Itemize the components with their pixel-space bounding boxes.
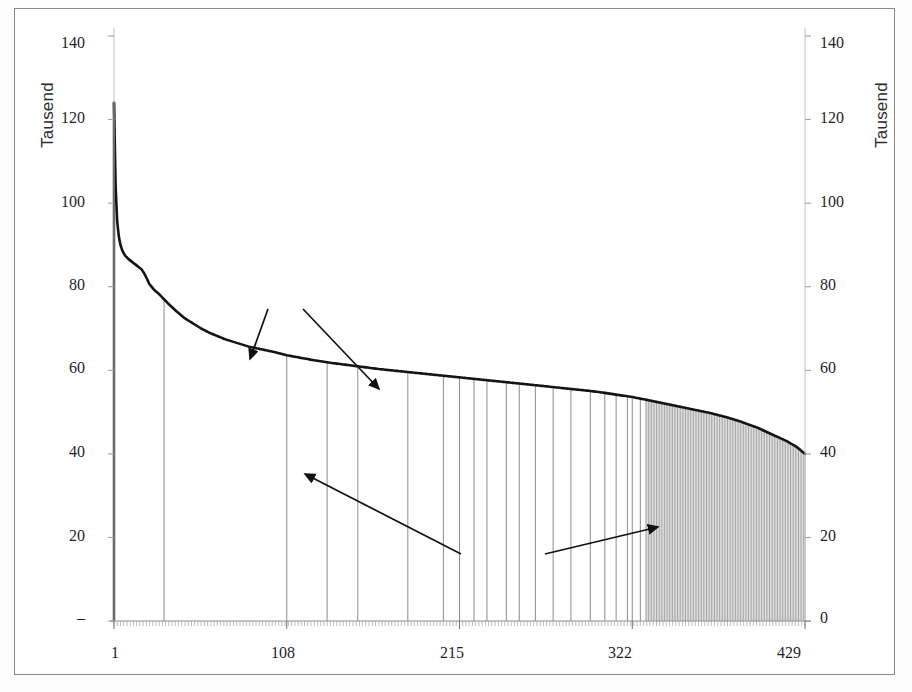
- sparse-region-mask: [112, 34, 645, 623]
- chart-frame: Tausend Tausend 140 120 100 80 60 40 20 …: [14, 8, 895, 675]
- plot-area: [15, 9, 896, 676]
- bars-layer: [112, 34, 805, 623]
- chart-figure: Tausend Tausend 140 120 100 80 60 40 20 …: [0, 0, 912, 692]
